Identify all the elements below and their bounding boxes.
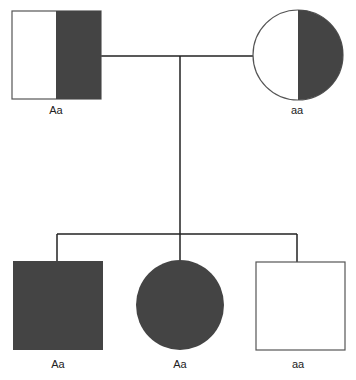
son-2-symbol xyxy=(256,262,345,350)
son-2-genotype: aa xyxy=(278,358,318,370)
daughter-1-genotype: Aa xyxy=(160,358,200,370)
mother-symbol xyxy=(253,10,343,100)
son-1-genotype: Aa xyxy=(38,358,78,370)
father-symbol xyxy=(12,11,101,99)
father-genotype: Aa xyxy=(36,104,76,116)
pedigree-chart xyxy=(0,0,356,380)
son-1-symbol xyxy=(13,261,103,350)
daughter-1-symbol xyxy=(136,260,224,350)
mother-genotype: aa xyxy=(277,104,317,116)
